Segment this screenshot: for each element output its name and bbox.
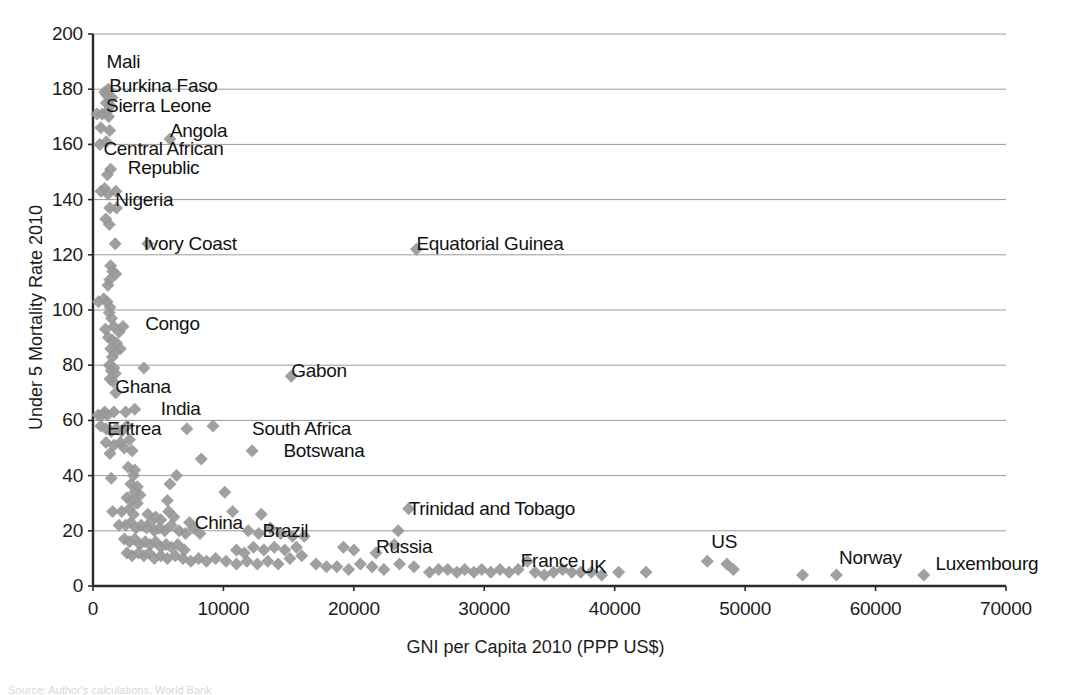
- point-label-line: Congo: [145, 314, 200, 333]
- point-label-trinidad-and-tobago: Trinidad and Tobago: [409, 499, 576, 518]
- point-label-line: India: [161, 399, 201, 418]
- point-label-line: Brazil: [263, 521, 309, 540]
- point-label-line: Burkina Faso: [109, 76, 217, 95]
- point-label-line: Eritrea: [107, 419, 161, 438]
- point-label-eritrea: Eritrea: [107, 419, 161, 438]
- data-point-marker: [230, 557, 243, 570]
- point-label-france: France: [521, 551, 578, 570]
- data-point-marker: [354, 557, 367, 570]
- data-point-marker: [180, 422, 193, 435]
- data-point-marker: [830, 568, 843, 581]
- point-label-line: France: [521, 551, 578, 570]
- point-label-luxembourg: Luxembourg: [936, 554, 1039, 573]
- point-label-line: Central African: [103, 139, 223, 158]
- point-label-line: Trinidad and Tobago: [409, 499, 576, 518]
- y-tick-label: 0: [13, 575, 83, 597]
- point-label-norway: Norway: [839, 548, 902, 567]
- point-label-equatorial-guinea: Equatorial Guinea: [416, 234, 563, 253]
- point-label-gabon: Gabon: [291, 361, 347, 380]
- scatter-chart: 020406080100120140160180200 010000200003…: [0, 0, 1071, 695]
- data-point-marker: [310, 557, 323, 570]
- x-axis-title: GNI per Capita 2010 (PPP US$): [0, 637, 1071, 658]
- point-label-line: Russia: [376, 537, 432, 556]
- point-label-line: South Africa: [252, 419, 351, 438]
- y-tick-label: 60: [13, 409, 83, 431]
- data-point-marker: [407, 560, 420, 573]
- x-tick-label: 10000: [163, 598, 283, 620]
- point-label-burkina-faso: Burkina Faso: [109, 76, 217, 95]
- point-label-us: US: [711, 532, 737, 551]
- point-label-india: India: [161, 399, 201, 418]
- point-label-line: Sierra Leone: [106, 96, 211, 115]
- point-label-botswana: Botswana: [283, 441, 364, 460]
- y-tick-label: 200: [13, 23, 83, 45]
- x-tick-label: 30000: [424, 598, 544, 620]
- point-label-line: China: [195, 513, 243, 532]
- x-tick-label: 0: [33, 598, 153, 620]
- data-point-marker: [261, 555, 274, 568]
- data-point-marker: [220, 555, 233, 568]
- y-tick-label: 20: [13, 520, 83, 542]
- data-point-marker: [337, 541, 350, 554]
- point-label-line: Republic: [103, 158, 223, 177]
- data-point-marker: [206, 419, 219, 432]
- point-label-central-african-republic: Central AfricanRepublic: [103, 139, 223, 177]
- x-tick-label: 70000: [946, 598, 1066, 620]
- data-point-marker: [109, 237, 122, 250]
- point-label-line: Luxembourg: [936, 554, 1039, 573]
- y-tick-label: 140: [13, 189, 83, 211]
- point-label-south-africa: South Africa: [252, 419, 351, 438]
- point-label-sierra-leone: Sierra Leone: [106, 96, 211, 115]
- data-point-marker: [392, 524, 405, 537]
- point-label-line: Ivory Coast: [144, 234, 237, 253]
- point-label-uk: UK: [581, 557, 607, 576]
- data-point-marker: [330, 560, 343, 573]
- data-point-marker: [347, 544, 360, 557]
- data-point-marker: [366, 560, 379, 573]
- data-point-marker: [161, 494, 174, 507]
- y-tick-label: 100: [13, 299, 83, 321]
- y-tick-label: 120: [13, 244, 83, 266]
- point-label-mali: Mali: [106, 52, 140, 71]
- point-label-russia: Russia: [376, 537, 432, 556]
- data-point-marker: [218, 486, 231, 499]
- point-label-line: UK: [581, 557, 607, 576]
- point-label-line: Botswana: [283, 441, 364, 460]
- point-label-line: Equatorial Guinea: [416, 234, 563, 253]
- data-point-marker: [246, 444, 259, 457]
- bottom-caption: Source: Author's calculations, World Ban…: [8, 684, 212, 695]
- data-point-marker: [257, 544, 270, 557]
- data-point-marker: [268, 541, 281, 554]
- y-tick-label: 40: [13, 465, 83, 487]
- data-point-marker: [640, 566, 653, 579]
- point-label-line: Gabon: [291, 361, 347, 380]
- point-label-ivory-coast: Ivory Coast: [144, 234, 237, 253]
- data-point-marker: [242, 524, 255, 537]
- data-point-marker: [255, 508, 268, 521]
- data-point-marker: [701, 555, 714, 568]
- data-point-marker: [342, 563, 355, 576]
- data-point-marker: [377, 563, 390, 576]
- point-label-line: US: [711, 532, 737, 551]
- point-label-line: Norway: [839, 548, 902, 567]
- data-point-marker: [796, 568, 809, 581]
- point-label-china: China: [195, 513, 243, 532]
- data-point-marker: [137, 361, 150, 374]
- y-axis-title: Under 5 Mortality Rate 2010: [26, 205, 47, 430]
- x-tick-label: 40000: [555, 598, 675, 620]
- data-point-marker: [251, 557, 264, 570]
- x-tick-label: 50000: [685, 598, 805, 620]
- data-point-marker: [272, 557, 285, 570]
- point-label-line: Mali: [106, 52, 140, 71]
- y-tick-label: 180: [13, 78, 83, 100]
- point-label-line: Ghana: [115, 377, 171, 396]
- x-tick-label: 60000: [816, 598, 936, 620]
- data-point-marker: [393, 557, 406, 570]
- data-point-marker: [612, 566, 625, 579]
- point-label-line: Nigeria: [115, 190, 173, 209]
- x-tick-label: 20000: [294, 598, 414, 620]
- gridlines: [93, 34, 1006, 531]
- data-point-marker: [917, 568, 930, 581]
- y-tick-label: 160: [13, 133, 83, 155]
- y-tick-label: 80: [13, 354, 83, 376]
